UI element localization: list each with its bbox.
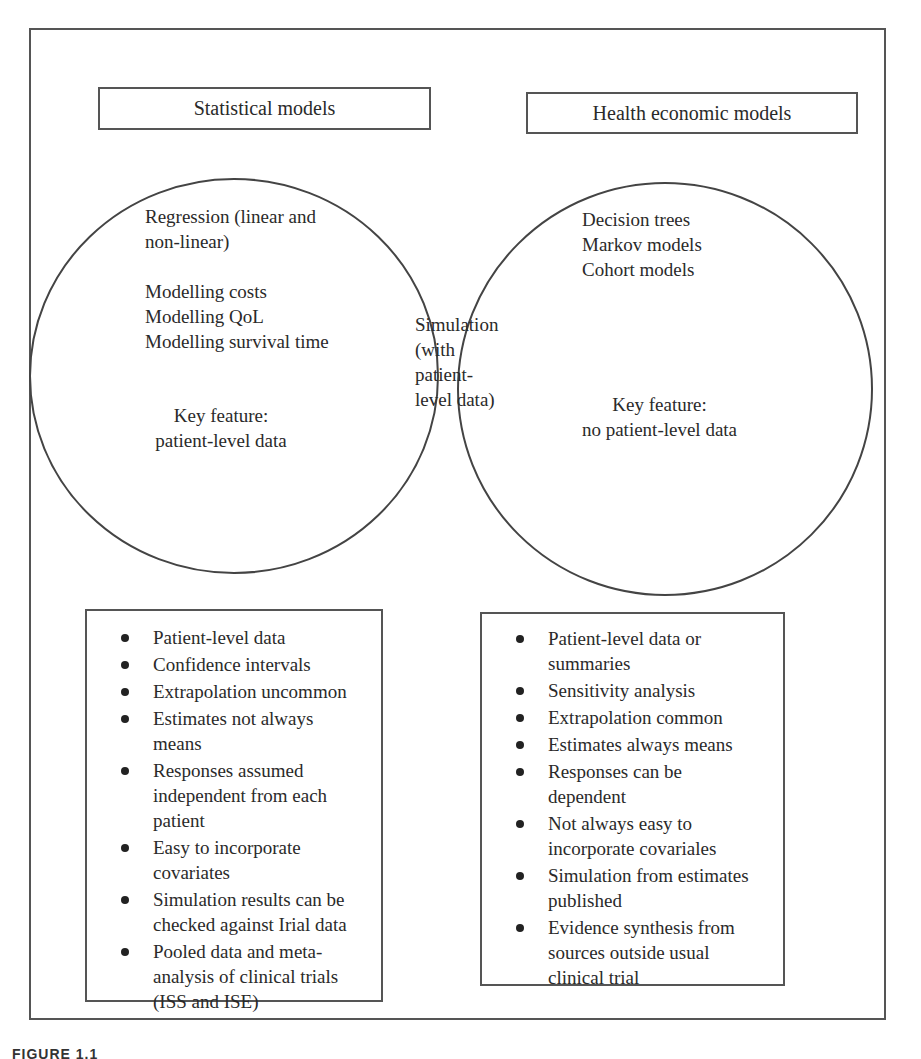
statistical-models-title: Statistical models xyxy=(98,87,431,130)
list-item: Extrapolation uncommon xyxy=(87,679,381,704)
health-economic-models-features-box: Patient-level data or summariesSensitivi… xyxy=(480,612,785,986)
bullet-icon xyxy=(516,714,524,722)
list-item-text: Evidence synthesis from sources outside … xyxy=(548,917,735,988)
list-item-text: Not always easy to incorporate covariale… xyxy=(548,813,716,859)
list-item-text: Extrapolation common xyxy=(548,707,723,728)
bullet-icon xyxy=(121,715,129,723)
list-item-text: Extrapolation uncommon xyxy=(153,681,347,702)
list-item-text: Patient-level data or summaries xyxy=(548,628,701,674)
bullet-icon xyxy=(121,896,129,904)
bullet-icon xyxy=(516,687,524,695)
list-item-text: Responses assumed independent from each … xyxy=(153,760,327,831)
list-item-text: Simulation results can be checked agains… xyxy=(153,889,347,935)
health-economic-models-features-list: Patient-level data or summariesSensitivi… xyxy=(482,626,783,990)
list-item: Estimates not always means xyxy=(87,706,381,756)
list-item-text: Estimates always means xyxy=(548,734,733,755)
list-item: Pooled data and meta- analysis of clinic… xyxy=(87,939,381,1014)
intersection-text: Simulation (with patient- level data) xyxy=(415,312,498,412)
list-item: Responses assumed independent from each … xyxy=(87,758,381,833)
list-item-text: Sensitivity analysis xyxy=(548,680,695,701)
list-item-text: Easy to incorporate covariates xyxy=(153,837,301,883)
list-item-text: Patient-level data xyxy=(153,627,285,648)
figure-caption: FIGURE 1.1 xyxy=(12,1046,98,1059)
health-economic-models-title-text: Health economic models xyxy=(593,102,792,125)
left-key-feature: Key feature: patient-level data xyxy=(145,403,297,453)
list-item-text: Pooled data and meta- analysis of clinic… xyxy=(153,941,338,1012)
bullet-icon xyxy=(121,948,129,956)
bullet-icon xyxy=(121,634,129,642)
list-item-text: Responses can be dependent xyxy=(548,761,682,807)
bullet-icon xyxy=(121,661,129,669)
bullet-icon xyxy=(121,844,129,852)
list-item: Not always easy to incorporate covariale… xyxy=(482,811,783,861)
list-item: Simulation from estimates published xyxy=(482,863,783,913)
bullet-icon xyxy=(516,635,524,643)
list-item: Estimates always means xyxy=(482,732,783,757)
statistical-models-features-list: Patient-level dataConfidence intervalsEx… xyxy=(87,625,381,1014)
list-item-text: Simulation from estimates published xyxy=(548,865,749,911)
list-item-text: Estimates not always means xyxy=(153,708,313,754)
bullet-icon xyxy=(516,741,524,749)
list-item: Easy to incorporate covariates xyxy=(87,835,381,885)
bullet-icon xyxy=(516,820,524,828)
left-set-items: Regression (linear and non-linear) Model… xyxy=(145,204,329,354)
bullet-icon xyxy=(121,688,129,696)
list-item: Responses can be dependent xyxy=(482,759,783,809)
statistical-models-title-text: Statistical models xyxy=(194,97,336,120)
list-item: Patient-level data xyxy=(87,625,381,650)
right-key-feature: Key feature: no patient-level data xyxy=(572,392,747,442)
list-item: Evidence synthesis from sources outside … xyxy=(482,915,783,990)
bullet-icon xyxy=(516,768,524,776)
list-item-text: Confidence intervals xyxy=(153,654,311,675)
bullet-icon xyxy=(516,872,524,880)
list-item: Patient-level data or summaries xyxy=(482,626,783,676)
list-item: Simulation results can be checked agains… xyxy=(87,887,381,937)
list-item: Extrapolation common xyxy=(482,705,783,730)
list-item: Confidence intervals xyxy=(87,652,381,677)
right-set-items: Decision trees Markov models Cohort mode… xyxy=(582,207,702,282)
bullet-icon xyxy=(516,924,524,932)
statistical-models-features-box: Patient-level dataConfidence intervalsEx… xyxy=(85,609,383,1002)
health-economic-models-title: Health economic models xyxy=(526,92,858,134)
bullet-icon xyxy=(121,767,129,775)
list-item: Sensitivity analysis xyxy=(482,678,783,703)
